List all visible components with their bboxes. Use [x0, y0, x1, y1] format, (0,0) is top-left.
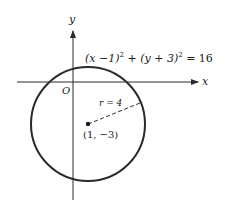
center-point — [86, 122, 90, 126]
radius-label: r = 4 — [99, 99, 122, 108]
circle-equation: (x −1)2 + (y + 3)2 = 16 — [85, 52, 213, 64]
center-label: (1, −3) — [83, 130, 118, 140]
equation-part-2: + (y + 3) — [124, 52, 178, 65]
y-axis-label: y — [69, 14, 75, 25]
origin-label: O — [62, 86, 70, 96]
x-axis-label: x — [202, 76, 208, 87]
equation-part-3: = 16 — [183, 52, 213, 65]
equation-part-1: (x −1) — [85, 52, 120, 65]
